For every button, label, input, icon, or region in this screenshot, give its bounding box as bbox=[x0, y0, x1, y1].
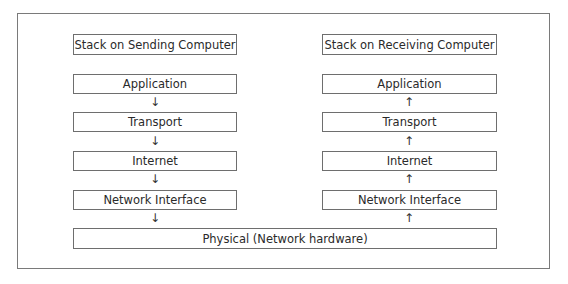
sending-layer-internet: Internet bbox=[73, 151, 237, 171]
sending-layer-transport: Transport bbox=[73, 112, 237, 132]
receiving-layer-network-interface: Network Interface bbox=[322, 190, 497, 210]
arrow-down-icon: ↓ bbox=[149, 212, 161, 224]
arrow-up-icon: ↑ bbox=[403, 96, 415, 108]
arrow-down-icon: ↓ bbox=[149, 135, 161, 147]
receiving-stack-title: Stack on Receiving Computer bbox=[322, 34, 497, 55]
sending-stack-title: Stack on Sending Computer bbox=[73, 34, 237, 55]
sending-layer-network-interface: Network Interface bbox=[73, 190, 237, 210]
receiving-layer-internet: Internet bbox=[322, 151, 497, 171]
arrow-up-icon: ↑ bbox=[403, 135, 415, 147]
arrow-up-icon: ↑ bbox=[403, 173, 415, 185]
receiving-layer-transport: Transport bbox=[322, 112, 497, 132]
arrow-up-icon: ↑ bbox=[403, 212, 415, 224]
sending-layer-application: Application bbox=[73, 74, 237, 94]
arrow-down-icon: ↓ bbox=[149, 96, 161, 108]
arrow-down-icon: ↓ bbox=[149, 173, 161, 185]
receiving-layer-application: Application bbox=[322, 74, 497, 94]
physical-layer: Physical (Network hardware) bbox=[73, 228, 497, 249]
